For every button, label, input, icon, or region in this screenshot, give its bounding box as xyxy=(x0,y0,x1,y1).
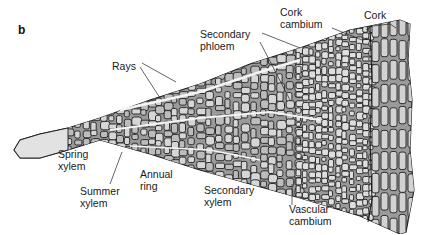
cell xyxy=(390,60,397,79)
cell xyxy=(316,142,322,148)
cell xyxy=(356,146,362,150)
cell xyxy=(124,189,133,194)
cell xyxy=(390,84,397,102)
cell xyxy=(83,92,91,98)
cell xyxy=(322,165,328,172)
cell xyxy=(141,199,151,205)
cell xyxy=(381,216,388,235)
cell xyxy=(233,62,242,69)
cell xyxy=(363,64,369,72)
cell xyxy=(342,50,350,57)
cell xyxy=(342,148,348,153)
cell xyxy=(296,66,301,73)
cell xyxy=(328,167,333,172)
cell xyxy=(188,183,196,191)
cell xyxy=(117,27,124,34)
cell xyxy=(251,102,256,111)
cell xyxy=(342,199,349,204)
cell xyxy=(179,66,185,73)
cell xyxy=(206,119,211,126)
cell xyxy=(66,92,72,102)
cell xyxy=(309,42,315,47)
cell xyxy=(188,72,195,82)
cell xyxy=(381,39,388,57)
cell xyxy=(309,125,315,131)
cell xyxy=(109,50,116,57)
cell xyxy=(363,114,367,119)
cell xyxy=(268,38,275,47)
cell xyxy=(268,20,273,29)
cell xyxy=(206,91,214,99)
cell xyxy=(141,46,151,56)
cell xyxy=(268,48,275,55)
cell xyxy=(342,140,348,145)
cell xyxy=(302,147,309,152)
cell xyxy=(336,144,342,151)
cell xyxy=(349,141,356,146)
cell xyxy=(336,181,341,188)
cell xyxy=(296,170,301,176)
cell xyxy=(342,115,347,122)
cell xyxy=(241,133,248,142)
cell xyxy=(91,71,100,81)
cell xyxy=(156,126,162,131)
cell xyxy=(342,131,346,139)
cell xyxy=(197,162,206,169)
cell xyxy=(124,119,131,127)
cell xyxy=(101,168,107,175)
cell xyxy=(268,129,277,136)
cell xyxy=(261,82,268,90)
cell xyxy=(302,163,309,170)
cell xyxy=(349,79,356,83)
cell xyxy=(286,101,294,109)
panel-letter: b xyxy=(18,23,25,37)
cell xyxy=(309,56,316,63)
cell xyxy=(101,49,109,56)
cell xyxy=(268,104,276,111)
cell xyxy=(117,162,123,171)
cell xyxy=(156,20,165,30)
cell xyxy=(322,82,328,87)
cell xyxy=(268,121,273,130)
cell xyxy=(328,182,334,186)
cell xyxy=(336,60,341,67)
cell xyxy=(296,108,301,113)
cell xyxy=(197,172,207,181)
cell xyxy=(197,20,205,26)
cell xyxy=(206,136,215,145)
cell xyxy=(216,163,225,168)
cell xyxy=(179,73,186,82)
cell xyxy=(322,157,326,161)
cell xyxy=(233,82,242,89)
cell xyxy=(216,154,225,161)
cell xyxy=(302,184,307,189)
cell xyxy=(164,186,170,194)
cell xyxy=(342,100,349,106)
cell xyxy=(206,58,212,64)
cell xyxy=(156,149,161,155)
cell xyxy=(101,42,106,49)
cell xyxy=(356,176,361,180)
cell xyxy=(91,130,97,135)
cell xyxy=(91,166,97,174)
cell xyxy=(251,118,261,125)
cell xyxy=(66,66,72,71)
cell xyxy=(91,64,100,70)
cell xyxy=(251,148,259,154)
cell xyxy=(251,198,260,206)
cell xyxy=(216,125,222,135)
cell xyxy=(316,164,322,171)
cell xyxy=(179,123,185,132)
cell xyxy=(363,123,369,131)
cell xyxy=(124,199,131,208)
cell xyxy=(349,218,355,225)
cell xyxy=(233,128,238,137)
cell xyxy=(91,80,98,88)
cell xyxy=(356,52,361,58)
cell xyxy=(83,68,92,77)
cell xyxy=(399,193,406,212)
cell xyxy=(322,149,329,156)
cell xyxy=(83,131,91,138)
cell xyxy=(206,67,213,76)
cell xyxy=(342,35,348,39)
